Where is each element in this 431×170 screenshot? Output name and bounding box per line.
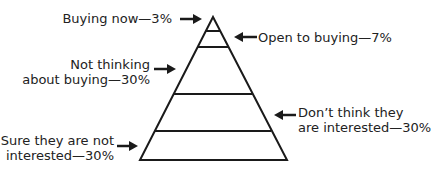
label-dont-think: Don’t think they are interested—30%: [298, 105, 431, 135]
label-line-1: Don’t think they: [298, 105, 431, 120]
label-line-1: Sure they are not: [1, 133, 114, 148]
label-line-2: about buying—30%: [22, 72, 150, 87]
arrow-right-icon: [117, 141, 138, 151]
label-text: Buying now—3%: [62, 11, 172, 26]
label-text: Open to buying—7%: [258, 30, 392, 45]
arrow-left-icon: [274, 110, 296, 120]
label-open-to-buying: Open to buying—7%: [258, 30, 392, 45]
label-sure-not-interested: Sure they are not interested—30%: [1, 133, 114, 163]
label-line-2: interested—30%: [1, 148, 114, 163]
label-not-thinking: Not thinking about buying—30%: [22, 57, 150, 87]
arrow-right-icon: [180, 14, 202, 24]
label-line-1: Not thinking: [22, 57, 150, 72]
arrow-right-icon: [154, 64, 176, 74]
label-line-2: are interested—30%: [298, 120, 431, 135]
label-buying-now: Buying now—3%: [62, 11, 172, 26]
arrow-left-icon: [234, 32, 257, 42]
